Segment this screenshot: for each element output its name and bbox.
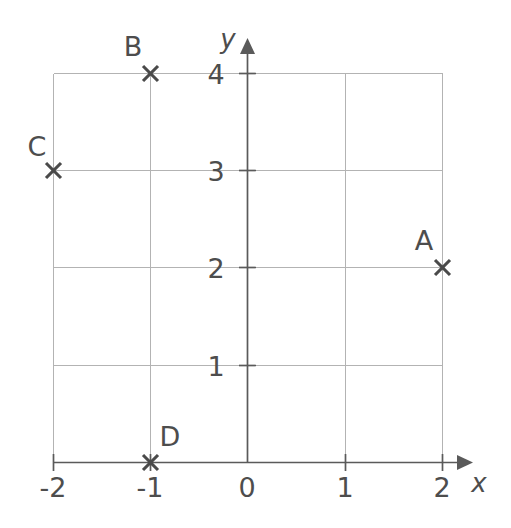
point-d-label: D — [160, 421, 181, 452]
x-axis — [53, 454, 473, 471]
y-tick-label-2: 2 — [207, 253, 224, 284]
y-tick-label-4: 4 — [207, 59, 224, 90]
y-tick-label-3: 3 — [207, 156, 224, 187]
y-axis — [239, 38, 256, 463]
x-tick-label-0: 0 — [238, 472, 255, 503]
x-tick-label--1: -1 — [137, 472, 164, 503]
y-tick-label-1: 1 — [207, 351, 224, 382]
point-c-label: C — [28, 131, 47, 162]
y-axis-label: y — [219, 24, 236, 54]
y-tick-labels: 4 3 2 1 — [207, 59, 224, 382]
x-axis-label: x — [470, 468, 487, 498]
coordinate-plane-figure: -2 -1 0 1 2 4 3 2 1 x y A B — [0, 0, 511, 528]
coordinate-plane-svg: -2 -1 0 1 2 4 3 2 1 x y A B — [0, 0, 511, 528]
point-b-label: B — [124, 31, 143, 62]
x-tick-label-1: 1 — [336, 472, 353, 503]
x-tick-labels: -2 -1 0 1 2 — [40, 472, 451, 503]
x-tick-label--2: -2 — [40, 472, 67, 503]
y-axis-arrow-icon — [240, 38, 255, 54]
data-point-c: C — [28, 131, 61, 178]
point-a-label: A — [415, 225, 434, 256]
x-tick-label-2: 2 — [433, 472, 450, 503]
